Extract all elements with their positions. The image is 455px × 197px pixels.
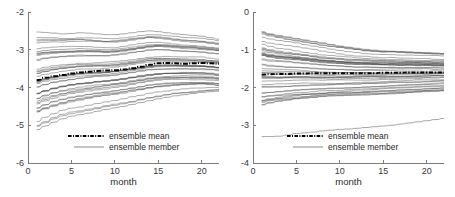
x-tick-label: 15 xyxy=(378,166,388,176)
ensemble-envelope-line xyxy=(37,91,219,130)
y-tick-label: -3 xyxy=(16,45,24,55)
legend: ensemble meanensemble member xyxy=(68,131,180,152)
x-tick-label: 0 xyxy=(250,166,255,176)
ensemble-member-line xyxy=(37,83,219,110)
x-tick-label: 20 xyxy=(197,166,207,176)
ensemble-member-line xyxy=(262,55,444,65)
y-tick-label: 0 xyxy=(244,7,249,17)
legend: ensemble meanensemble member xyxy=(287,131,399,152)
legend-mean-label: ensemble mean xyxy=(109,131,170,141)
x-tick-label: 10 xyxy=(335,166,345,176)
ensemble-member-line xyxy=(262,33,444,54)
x-tick-label: 10 xyxy=(110,166,120,176)
y-tick-label: -5 xyxy=(16,120,24,130)
chart-panel-left: -2-3-4-5-605101520monthensemble meanense… xyxy=(0,0,228,197)
x-tick-label: 5 xyxy=(69,166,74,176)
y-tick-label: -1 xyxy=(241,45,249,55)
ensemble-envelope-line xyxy=(262,48,444,62)
x-tick-label: 5 xyxy=(294,166,299,176)
legend-member-label: ensemble member xyxy=(109,142,180,152)
ensemble-member-line xyxy=(262,32,444,54)
legend-mean-label: ensemble mean xyxy=(328,131,389,141)
chart-svg-right: 0-1-2-3-405101520monthensemble meanensem… xyxy=(227,0,455,197)
ensemble-figure: -2-3-4-5-605101520monthensemble meanense… xyxy=(0,0,455,197)
y-tick-label: -6 xyxy=(16,158,24,168)
chart-svg-left: -2-3-4-5-605101520monthensemble meanense… xyxy=(0,0,228,197)
legend-member-label: ensemble member xyxy=(328,142,399,152)
y-tick-label: -4 xyxy=(241,158,249,168)
ensemble-member-line xyxy=(37,76,219,99)
y-tick-label: -2 xyxy=(241,83,249,93)
x-axis-title: month xyxy=(110,176,136,187)
chart-panel-right: 0-1-2-3-405101520monthensemble meanensem… xyxy=(227,0,455,197)
y-tick-label: -4 xyxy=(16,83,24,93)
y-tick-label: -3 xyxy=(241,120,249,130)
x-tick-label: 20 xyxy=(422,166,432,176)
x-axis-title: month xyxy=(335,176,361,187)
x-tick-label: 0 xyxy=(25,166,30,176)
ensemble-member-line xyxy=(37,89,219,126)
x-tick-label: 15 xyxy=(153,166,163,176)
ensemble-envelope-line xyxy=(262,32,444,54)
y-tick-label: -2 xyxy=(16,7,24,17)
